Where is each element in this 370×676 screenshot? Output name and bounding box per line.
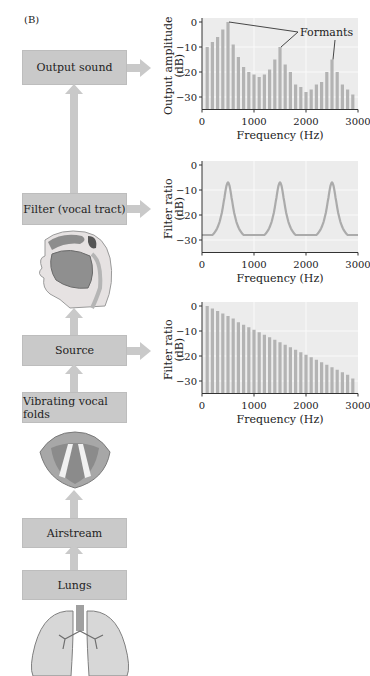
vocal-folds-illustration xyxy=(35,430,115,490)
bar xyxy=(294,350,297,394)
bar xyxy=(268,337,271,393)
arrow-shaft xyxy=(70,94,78,193)
arrow-shaft xyxy=(70,554,78,570)
bar xyxy=(263,335,266,394)
bar xyxy=(252,75,255,110)
bar xyxy=(278,47,281,110)
bar xyxy=(242,325,245,394)
trachea xyxy=(76,605,84,631)
bar xyxy=(346,90,349,110)
lungs-box: Lungs xyxy=(22,570,127,600)
bar xyxy=(351,379,354,394)
bar xyxy=(221,314,224,394)
y-axis-unit: (dB) xyxy=(173,197,186,221)
x-tick-label: 1000 xyxy=(241,116,266,127)
bar xyxy=(346,375,349,394)
bar xyxy=(206,306,209,394)
bar xyxy=(330,60,333,110)
y-tick-label: −30 xyxy=(176,235,197,246)
bar xyxy=(242,67,245,110)
bar xyxy=(310,90,313,110)
bar xyxy=(320,362,323,393)
arrow-shaft xyxy=(70,374,78,392)
x-tick-label: 2000 xyxy=(293,259,318,270)
bar xyxy=(299,352,302,393)
arrow-shaft xyxy=(127,64,141,72)
bar xyxy=(304,92,307,110)
bar xyxy=(336,72,339,110)
bar xyxy=(268,70,271,110)
bar xyxy=(226,22,229,110)
source-label: Source xyxy=(55,344,94,357)
bar xyxy=(226,316,229,394)
right-lung xyxy=(87,611,129,676)
y-tick-label: −10 xyxy=(176,326,197,337)
bar xyxy=(247,72,250,110)
bar xyxy=(258,77,261,110)
x-tick-label: 2000 xyxy=(293,400,318,411)
bar xyxy=(284,345,287,394)
output-sound-box: Output sound xyxy=(22,50,127,85)
source-spectrum-chart: 0−10−20−300100020003000Frequency (Hz)Fil… xyxy=(150,284,370,434)
bar xyxy=(325,365,328,394)
x-axis-label: Frequency (Hz) xyxy=(237,272,324,285)
filter-box: Filter (vocal tract) xyxy=(22,193,127,225)
bar xyxy=(289,347,292,393)
bar xyxy=(232,45,235,110)
bar xyxy=(289,72,292,110)
x-axis-label: Frequency (Hz) xyxy=(237,413,324,426)
x-tick-label: 1000 xyxy=(241,259,266,270)
source-box: Source xyxy=(22,335,127,366)
x-tick-label: 3000 xyxy=(345,259,370,270)
x-tick-label: 0 xyxy=(199,400,205,411)
arrow-head xyxy=(65,84,83,94)
vibrating-vocal-folds-box: Vibrating vocal folds xyxy=(22,392,127,423)
bar xyxy=(263,75,266,110)
bar xyxy=(310,357,313,393)
bar xyxy=(330,367,333,393)
bar xyxy=(273,340,276,394)
left-lung xyxy=(31,611,73,676)
arrow-shaft xyxy=(70,318,78,335)
y-tick-label: −10 xyxy=(176,185,197,196)
panel-label: (B) xyxy=(24,14,39,25)
arrow-head xyxy=(65,490,83,500)
arrow-shaft xyxy=(127,347,141,355)
vibrating-vocal-folds-label: Vibrating vocal folds xyxy=(23,395,126,421)
bar xyxy=(284,65,287,110)
lungs-illustration xyxy=(25,605,135,676)
bar xyxy=(299,87,302,110)
bar xyxy=(273,60,276,110)
lungs-label: Lungs xyxy=(57,579,91,592)
y-tick-label: −30 xyxy=(176,376,197,387)
bar xyxy=(325,72,328,110)
x-axis-label: Frequency (Hz) xyxy=(237,129,324,142)
formants-annotation: Formants xyxy=(300,26,353,39)
bar xyxy=(232,319,235,394)
arrow-shaft xyxy=(127,205,141,213)
bar xyxy=(252,330,255,394)
y-axis-unit: (dB) xyxy=(173,338,186,362)
bar xyxy=(304,355,307,394)
y-tick-label: 0 xyxy=(191,160,197,171)
arrow-head xyxy=(65,364,83,374)
y-tick-label: −30 xyxy=(176,92,197,103)
y-axis-unit: (dB) xyxy=(173,54,186,78)
x-tick-label: 2000 xyxy=(293,116,318,127)
bar xyxy=(278,342,281,393)
x-tick-label: 3000 xyxy=(345,116,370,127)
bar xyxy=(341,372,344,393)
airstream-label: Airstream xyxy=(47,527,103,540)
bar xyxy=(351,95,354,110)
bar xyxy=(315,360,318,394)
x-tick-label: 3000 xyxy=(345,400,370,411)
bar xyxy=(320,82,323,110)
arrow-shaft xyxy=(70,500,78,518)
filter-function-chart: 0−10−20−300100020003000Frequency (Hz)Fil… xyxy=(150,143,370,293)
bar xyxy=(247,327,250,393)
bar xyxy=(216,311,219,394)
bar xyxy=(216,37,219,110)
bar xyxy=(336,370,339,394)
bar xyxy=(211,42,214,110)
bar xyxy=(237,57,240,110)
